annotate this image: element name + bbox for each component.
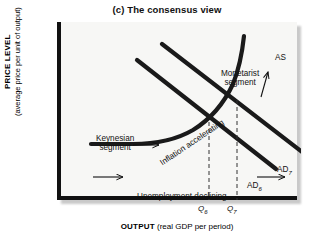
keynesian-segment-label-line2: segment: [99, 143, 130, 152]
x-tick-label-q7-subscript: 7: [233, 209, 236, 215]
monetarist-segment-label-line1: Monetarist: [221, 69, 259, 78]
chart-canvas: [61, 22, 301, 200]
ad6-curve-label-text: AD: [247, 181, 258, 190]
page-title: (c) The consensus view: [0, 4, 334, 15]
inflation-up-arrow: [261, 72, 268, 97]
ad6-curve-label-subscript: 6: [258, 186, 261, 192]
x-axis-title-main: OUTPUT: [121, 222, 155, 231]
monetarist-segment-label-line2: segment: [224, 78, 255, 87]
unemployment-declining-label: Unemployment declining: [137, 192, 227, 201]
ad7-curve-label-text: AD: [277, 165, 288, 174]
y-axis-title-main: PRICE LEVEL: [3, 0, 13, 147]
keynesian-segment-label-line1: Keynesian: [96, 134, 134, 143]
y-axis-title-sub: (average price per unit of output): [13, 0, 22, 147]
keynesian-segment-label: Keynesian segment: [96, 134, 134, 153]
y-axis-title: PRICE LEVEL (average price per unit of o…: [3, 0, 22, 147]
x-axis-title: OUTPUT (real GDP per period): [57, 222, 297, 231]
x-tick-label-q6: Q6: [198, 204, 208, 215]
as-curve-label: AS: [275, 53, 286, 62]
monetarist-segment-label: Monetarist segment: [221, 69, 259, 88]
x-tick-label-q7: Q7: [227, 204, 237, 215]
x-tick-label-q6-subscript: 6: [204, 209, 207, 215]
plot-area: AS Monetarist segment Keynesian segment …: [57, 22, 297, 200]
x-axis-title-sub: (real GDP per period): [157, 222, 233, 231]
ad7-curve-label: AD7: [277, 165, 292, 177]
ad7-curve-label-subscript: 7: [288, 170, 291, 176]
ad6-curve-label: AD6: [247, 181, 262, 193]
